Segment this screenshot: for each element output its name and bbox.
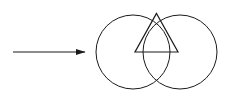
inscribed-triangle: [135, 13, 178, 52]
geometry-diagram: [0, 0, 231, 105]
figure-container: [0, 0, 231, 105]
